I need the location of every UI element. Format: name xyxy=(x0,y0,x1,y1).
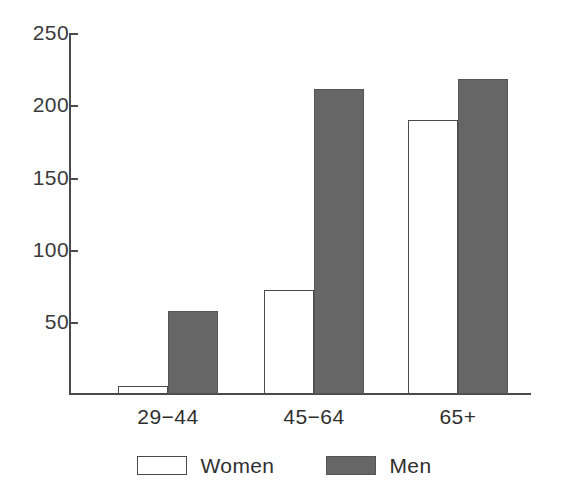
bar-men-45-64 xyxy=(314,89,364,394)
legend-swatch-men-icon xyxy=(326,456,376,475)
legend-label-men: Men xyxy=(389,455,431,476)
chart-legend: Women Men xyxy=(0,455,569,476)
y-tick-100 xyxy=(69,250,78,252)
legend-label-women: Women xyxy=(200,455,274,476)
bar-chart: 250 200 150 100 50 29−44 45−64 65+ xyxy=(0,0,569,496)
y-tick-50 xyxy=(69,322,78,324)
y-tick-150 xyxy=(69,178,78,180)
bar-men-65plus xyxy=(458,79,508,394)
y-tick-label-250: 250 xyxy=(13,22,69,43)
y-tick-label-50: 50 xyxy=(13,311,69,332)
bar-men-29-44 xyxy=(168,311,218,395)
y-tick-label-200: 200 xyxy=(13,94,69,115)
y-tick-label-100: 100 xyxy=(13,239,69,260)
y-axis-line xyxy=(69,33,71,395)
bar-women-29-44 xyxy=(118,386,168,395)
legend-swatch-women-icon xyxy=(137,456,187,475)
plot-area: 250 200 150 100 50 29−44 45−64 65+ xyxy=(0,0,569,440)
y-tick-200 xyxy=(69,105,78,107)
x-tick-label-29-44: 29−44 xyxy=(118,406,218,427)
x-tick-label-65plus: 65+ xyxy=(408,406,508,427)
x-tick-label-45-64: 45−64 xyxy=(264,406,364,427)
legend-item-men: Men xyxy=(326,455,431,476)
bar-women-65plus xyxy=(408,120,458,395)
legend-item-women: Women xyxy=(137,455,274,476)
y-tick-label-150: 150 xyxy=(13,167,69,188)
bar-women-45-64 xyxy=(264,290,314,394)
y-tick-250 xyxy=(69,33,78,35)
